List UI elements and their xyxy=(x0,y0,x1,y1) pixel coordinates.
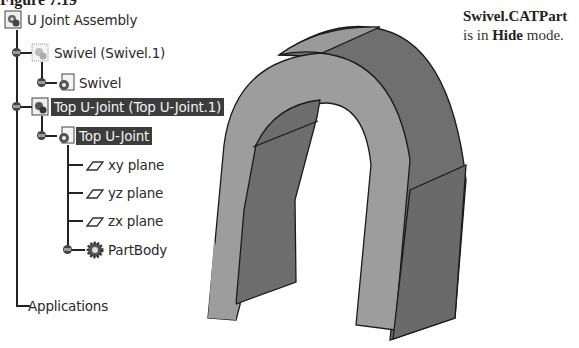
part-icon xyxy=(56,126,76,146)
tree-node-yz-plane[interactable]: yz plane xyxy=(85,182,166,204)
tree-branch xyxy=(67,145,69,251)
tree-node-swivel-part[interactable]: Swivel xyxy=(56,72,124,94)
tree-label-root: U Joint Assembly xyxy=(24,11,140,29)
expand-toggle[interactable] xyxy=(37,78,46,87)
tree-trunk xyxy=(16,30,18,306)
note-part-name: Swivel.CATPart xyxy=(463,8,567,24)
tree-node-swivel-instance[interactable]: Swivel (Swivel.1) xyxy=(31,42,168,64)
hide-mode-note: Swivel.CATPart is in Hide mode. xyxy=(463,7,579,45)
tree-branch xyxy=(67,220,83,222)
tree-node-top-ujoint-part[interactable]: Top U-Joint xyxy=(56,125,152,147)
product-icon xyxy=(31,97,51,117)
part-icon xyxy=(56,73,76,93)
tree-label-applications: Applications xyxy=(28,297,111,315)
collapse-toggle[interactable] xyxy=(12,102,21,111)
plane-icon xyxy=(85,211,105,231)
assembly-icon xyxy=(4,10,24,30)
note-text: is in xyxy=(463,27,492,43)
tree-node-partbody[interactable]: PartBody xyxy=(85,239,170,261)
model-outer-dark-face xyxy=(279,27,466,340)
tree-branch xyxy=(67,192,83,194)
plane-icon xyxy=(85,155,105,175)
model-right-leg-dark xyxy=(393,165,466,339)
tree-node-zx-plane[interactable]: zx plane xyxy=(85,210,166,232)
tree-label: Swivel xyxy=(76,74,124,92)
expand-toggle[interactable] xyxy=(63,245,72,254)
tree-node-root[interactable]: U Joint Assembly xyxy=(4,9,140,31)
tree-node-top-ujoint-instance[interactable]: Top U-Joint (Top U-Joint.1) xyxy=(31,96,224,118)
note-mode: Hide xyxy=(492,27,523,43)
tree-label: Top U-Joint xyxy=(76,127,152,145)
note-text-end: mode. xyxy=(523,27,564,43)
model-top-strip xyxy=(279,27,380,55)
tree-label: PartBody xyxy=(105,241,170,259)
collapse-toggle[interactable] xyxy=(12,48,21,57)
specification-tree: U Joint Assembly Swivel (Swivel.1) Swive… xyxy=(0,0,260,348)
tree-label: zx plane xyxy=(105,212,166,230)
tree-label: xy plane xyxy=(105,156,167,174)
tree-node-xy-plane[interactable]: xy plane xyxy=(85,154,167,176)
tree-branch xyxy=(67,164,83,166)
collapse-toggle[interactable] xyxy=(37,131,46,140)
body-icon xyxy=(85,240,105,260)
tree-label: yz plane xyxy=(105,184,166,202)
tree-node-applications[interactable]: Applications xyxy=(28,295,111,317)
model-inner-edge xyxy=(253,121,318,147)
tree-label: Top U-Joint (Top U-Joint.1) xyxy=(51,98,224,116)
product-icon-hidden xyxy=(31,43,51,63)
plane-icon xyxy=(85,183,105,203)
tree-label: Swivel (Swivel.1) xyxy=(51,44,168,62)
